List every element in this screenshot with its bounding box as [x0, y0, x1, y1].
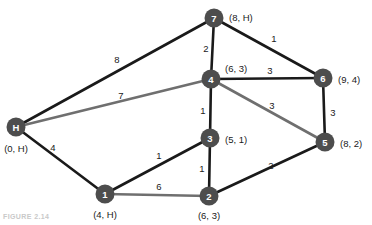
graph-node-name-2: 2 — [206, 191, 211, 202]
edge-weights-layer: 8742131331162 — [50, 33, 335, 192]
graph-node-label-5: (8, 2) — [340, 138, 362, 149]
graph-node-label-3: (5, 1) — [225, 134, 247, 145]
edge-weight-6-5: 3 — [330, 107, 335, 118]
graph-node-name-H: H — [13, 122, 20, 133]
edge-weight-3-2: 1 — [199, 163, 204, 174]
graph-node-name-7: 7 — [211, 13, 216, 24]
graph-node-name-6: 6 — [320, 73, 325, 84]
edge-weight-H-1: 4 — [50, 142, 55, 153]
edge-weight-7-6: 1 — [271, 33, 276, 44]
graph-edge-H-4 — [16, 79, 211, 127]
graph-canvas: 8742131331162 H1234567 (0, H)(4, H)(6, 3… — [0, 0, 372, 225]
edge-weight-4-5: 3 — [269, 100, 274, 111]
edge-weight-4-6: 3 — [267, 65, 272, 76]
edge-weight-2-5: 2 — [268, 160, 273, 171]
nodes-layer: H1234567 — [7, 9, 335, 206]
graph-node-label-1: (4, H) — [93, 209, 117, 220]
edge-weight-4-3: 1 — [200, 105, 205, 116]
graph-node-label-4: (6, 3) — [225, 63, 247, 74]
graph-node-label-H: (0, H) — [4, 143, 28, 154]
edge-weight-H-7: 8 — [114, 54, 119, 65]
graph-node-name-1: 1 — [102, 189, 108, 200]
graph-edge-H-7 — [16, 18, 214, 127]
graph-node-label-6: (9, 4) — [338, 74, 360, 85]
graph-edge-4-6 — [211, 78, 323, 79]
graph-edge-H-1 — [16, 127, 105, 194]
graph-node-label-2: (6, 3) — [198, 210, 220, 221]
graph-edge-2-5 — [209, 142, 325, 196]
graph-node-name-4: 4 — [208, 74, 214, 85]
edge-weight-3-1: 1 — [156, 150, 161, 161]
edge-weight-7-4: 2 — [203, 43, 208, 54]
graph-figure: 8742131331162 H1234567 (0, H)(4, H)(6, 3… — [0, 0, 372, 225]
graph-edge-1-2 — [105, 194, 209, 196]
edges-layer — [16, 18, 325, 196]
graph-edge-6-5 — [323, 78, 325, 142]
graph-node-name-5: 5 — [322, 137, 328, 148]
graph-node-name-3: 3 — [207, 133, 212, 144]
edge-weight-H-4: 7 — [118, 90, 123, 101]
graph-node-label-7: (8, H) — [229, 12, 253, 23]
figure-caption: FIGURE 2.14 — [3, 213, 49, 220]
edge-weight-1-2: 6 — [156, 181, 161, 192]
